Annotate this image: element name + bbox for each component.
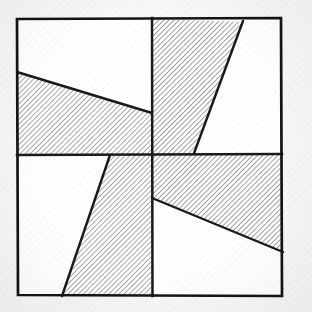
quadrant-bottom-left [17, 155, 152, 296]
quadrant-top-right [152, 18, 282, 156]
quadrant-bottom-right [152, 154, 283, 296]
center-divider-horizontal [17, 154, 282, 155]
hatched-pinwheel-diagram: Hatched pinwheel quadrant pattern A hand… [0, 0, 312, 312]
quadrant-top-left [17, 19, 152, 155]
center-divider-vertical [152, 18, 153, 296]
figure-root: Hatched pinwheel quadrant pattern A hand… [0, 0, 312, 312]
